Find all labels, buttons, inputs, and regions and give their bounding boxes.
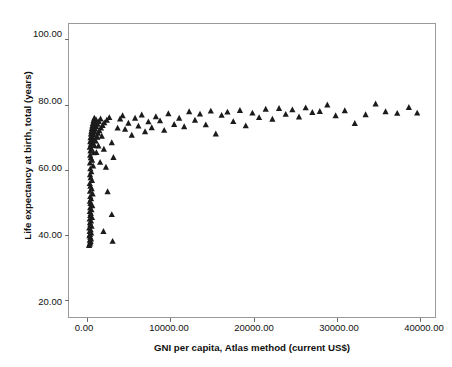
y-tick-label: 20.00	[0, 296, 62, 307]
y-tick-label: 60.00	[0, 162, 62, 173]
scatter-chart: Life expectancy at birth, total (years) …	[0, 0, 452, 367]
y-tick-label: 80.00	[0, 95, 62, 106]
x-tick-label: 40000.00	[384, 322, 452, 335]
x-tick-label: 0.00	[44, 322, 124, 335]
y-tick-label: 100.00	[0, 28, 62, 39]
y-axis-tick-labels: 100.00 80.00 60.00 40.00 20.00	[0, 0, 62, 367]
y-tick-label: 40.00	[0, 229, 62, 240]
plot-area	[68, 23, 436, 318]
x-tick-label: 30000.00	[299, 322, 379, 335]
x-tick-label: 20000.00	[214, 322, 294, 335]
x-axis-title: GNI per capita, Atlas method (current US…	[68, 342, 436, 353]
x-tick-label: 10000.00	[129, 322, 209, 335]
